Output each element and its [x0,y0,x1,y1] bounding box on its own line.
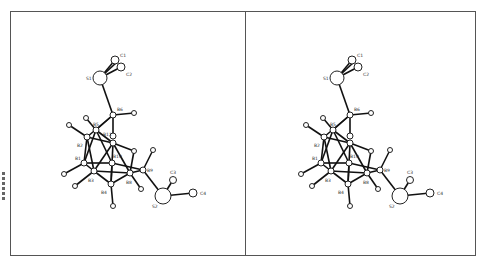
label-b6: B6 [117,107,123,112]
label-b8: B8 [126,180,132,185]
label-b3: B3 [325,178,331,183]
molecule-right: S1 C1 C2 B6 B5 B2 B1 B10 B3 B4 B8 B9 S2 … [299,53,444,209]
label-b10: B10 [350,154,359,159]
label-b5: B5 [330,122,336,127]
label-s2: S2 [389,204,395,209]
label-c1: C1 [120,53,126,58]
label-s1: S1 [86,76,92,81]
label-b6: B6 [354,107,360,112]
label-b1: B1 [312,156,318,161]
label-b4: B4 [338,190,344,195]
label-b10: B10 [113,154,122,159]
label-s2: S2 [152,204,158,209]
label-c3: C3 [407,170,413,175]
label-b5: B5 [93,122,99,127]
label-b1: B1 [75,156,81,161]
label-b8: B8 [363,180,369,185]
label-b9: B9 [384,168,390,173]
label-b3: B3 [88,178,94,183]
label-c4: C4 [437,191,443,196]
label-b9: B9 [147,168,153,173]
label-c1: C1 [357,53,363,58]
molecule-left: S1 C1 C2 B6 B5 B11 B2 B1 B10 B3 B4 B8 B9… [62,53,207,209]
label-b4: B4 [101,190,107,195]
label-b11: B11 [103,132,112,137]
label-c3: C3 [170,170,176,175]
label-b2: B2 [77,143,83,148]
label-b2: B2 [314,143,320,148]
label-c2: C2 [363,72,369,77]
label-s1: S1 [323,76,329,81]
molecule-stereo-drawing: S1 C1 C2 B6 B5 B11 B2 B1 B10 B3 B4 B8 B9… [0,0,482,269]
label-c4: C4 [200,191,206,196]
label-c2: C2 [126,72,132,77]
